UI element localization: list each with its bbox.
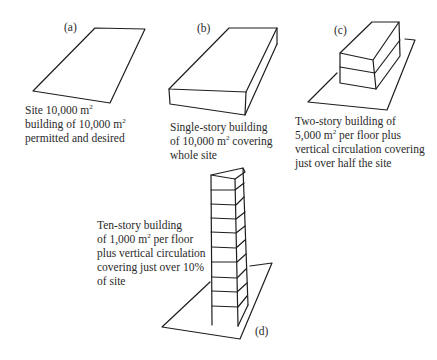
panel-c-caption: Two-story building of 5,000 m2 per floor… — [295, 114, 425, 170]
panel-d-tag: (d) — [255, 325, 268, 337]
caption-line: 5,000 m2 per floor plus — [295, 128, 425, 142]
panel-a-tag: (a) — [64, 21, 77, 33]
caption-line: Single-story building — [170, 120, 273, 134]
caption-line: whole site — [170, 148, 273, 162]
caption-line: covering just over 10% — [97, 260, 206, 274]
caption-line: Site 10,000 m2 — [25, 103, 126, 117]
panel-d-caption: Ten-story building of 1,000 m2 per floor… — [97, 218, 206, 288]
caption-line: plus vertical circulation — [97, 246, 206, 260]
panel-c-site-plane — [308, 39, 415, 110]
caption-line: of site — [97, 274, 206, 288]
panel-b-caption: Single-story building of 10,000 m2 cover… — [170, 120, 273, 162]
caption-line: vertical circulation covering — [295, 142, 425, 156]
caption-line: Ten-story building — [97, 218, 206, 232]
panel-b-tag: (b) — [197, 22, 210, 34]
panel-a-caption: Site 10,000 m2 building of 10,000 m2 per… — [25, 103, 126, 145]
caption-line: of 10,000 m2 covering — [170, 134, 273, 148]
caption-line: building of 10,000 m2 — [25, 117, 126, 131]
panel-c-two-story-block — [340, 22, 400, 89]
building-massing-diagram — [0, 0, 437, 360]
caption-line: of 1,000 m2 per floor — [97, 232, 206, 246]
panel-d-ten-story-tower — [211, 168, 248, 326]
caption-line: permitted and desired — [25, 131, 126, 145]
panel-c-tag: (c) — [334, 24, 347, 36]
caption-line: just over half the site — [295, 156, 425, 170]
panel-b-single-story-slab — [169, 28, 277, 115]
caption-line: Two-story building of — [295, 114, 425, 128]
panel-a-site-plane — [33, 28, 145, 103]
